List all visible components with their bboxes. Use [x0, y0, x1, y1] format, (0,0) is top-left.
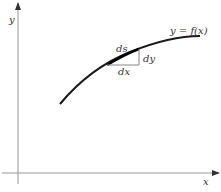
y-axis-label: y [8, 14, 15, 25]
arc-length-diagram: y x y = f(x) ds dy dx [0, 0, 221, 192]
dx-label: dx [118, 66, 130, 77]
dy-label: dy [143, 53, 155, 64]
x-axis-label: x [203, 176, 209, 187]
ds-label: ds [116, 43, 128, 54]
curve-label: y = f(x) [169, 25, 208, 36]
